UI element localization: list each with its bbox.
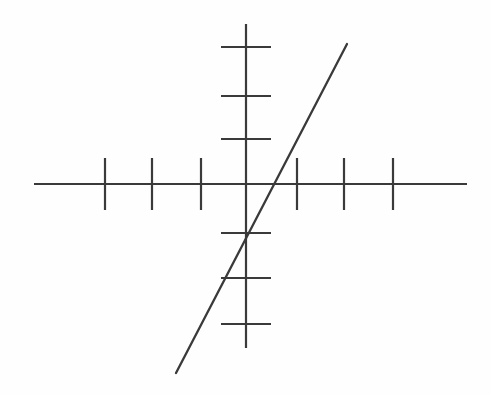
graph-figure: [0, 0, 491, 395]
coordinate-plane-svg: [0, 0, 491, 395]
